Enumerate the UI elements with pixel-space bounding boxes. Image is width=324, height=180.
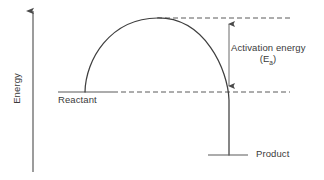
reactant-label: Reactant xyxy=(58,95,97,106)
activation-energy-symbol-close: ) xyxy=(273,53,276,64)
reaction-coordinate-curve xyxy=(85,18,229,155)
activation-energy-text: Activation energy xyxy=(231,42,306,53)
activation-energy-symbol-open: (E xyxy=(260,53,270,64)
activation-energy-label: Activation energy (Ea) xyxy=(231,43,305,66)
product-label: Product xyxy=(256,149,289,160)
reaction-energy-diagram: Energy Reactant Product Activation energ… xyxy=(0,0,324,180)
activation-energy-symbol: (Ea) xyxy=(231,54,305,66)
axis-label-energy: Energy xyxy=(12,61,23,115)
